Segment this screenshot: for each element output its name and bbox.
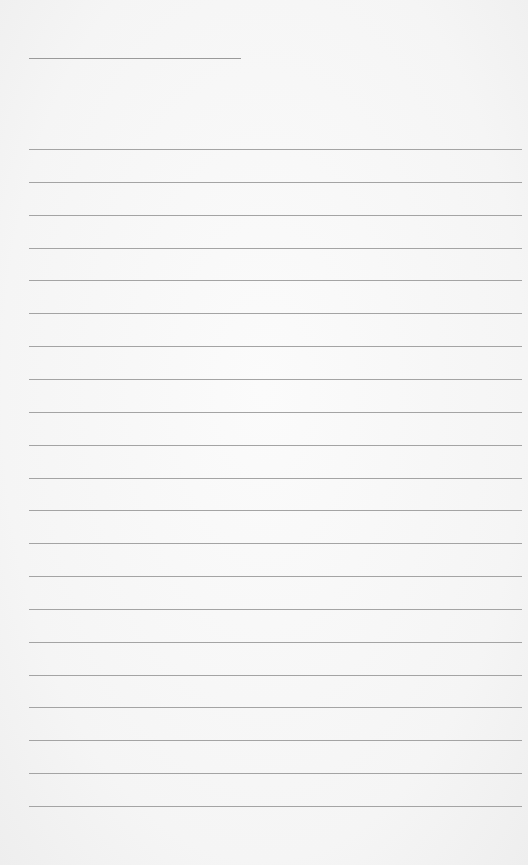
ruled-line [29,379,522,380]
ruled-line [29,215,522,216]
ruled-line [29,313,522,314]
lined-paper-page [0,0,528,865]
ruled-line [29,609,522,610]
ruled-line [29,346,522,347]
ruled-line [29,149,522,150]
ruled-line [29,478,522,479]
ruled-line [29,543,522,544]
ruled-line [29,806,522,807]
ruled-line [29,280,522,281]
ruled-line [29,182,522,183]
ruled-line [29,740,522,741]
ruled-line [29,675,522,676]
ruled-line [29,510,522,511]
ruled-line [29,576,522,577]
ruled-line [29,707,522,708]
title-line [29,58,241,59]
ruled-line [29,773,522,774]
ruled-line [29,642,522,643]
ruled-line [29,412,522,413]
ruled-line [29,445,522,446]
ruled-line [29,248,522,249]
